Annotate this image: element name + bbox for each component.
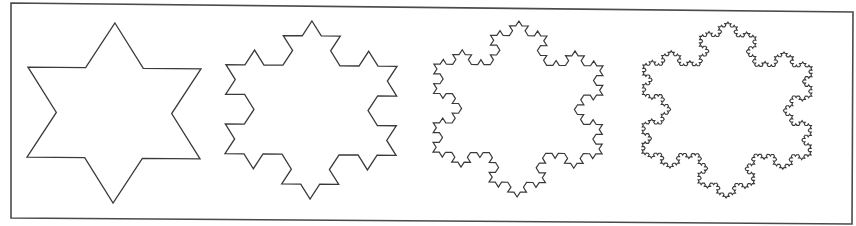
snowflake-group (27, 21, 812, 203)
koch-iteration-3 (433, 21, 603, 197)
koch-iteration-2 (225, 21, 397, 199)
koch-iteration-1 (27, 23, 201, 203)
koch-snowflake-figure (0, 0, 856, 226)
koch-iteration-4 (642, 22, 812, 198)
figure-frame (11, 3, 853, 224)
